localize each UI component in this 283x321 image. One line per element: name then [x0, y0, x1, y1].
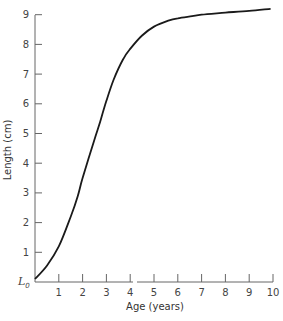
y-axis-title: Length (cm): [2, 120, 13, 181]
y-origin-label: L0: [17, 275, 30, 290]
x-tick-label: 9: [246, 287, 252, 298]
x-ticks: 12345678910: [56, 274, 280, 298]
y-tick-label: 9: [23, 9, 29, 20]
y-tick-label: 2: [23, 217, 29, 228]
growth-chart: 123456789 12345678910 L0 Age (years) Len…: [0, 0, 283, 321]
y-tick-label: 1: [23, 247, 29, 258]
growth-curve: [35, 9, 271, 279]
y-tick-label: 6: [23, 98, 29, 109]
y-tick-label: 8: [23, 39, 29, 50]
x-tick-label: 4: [127, 287, 133, 298]
x-axis-title: Age (years): [126, 301, 184, 312]
x-tick-label: 2: [79, 287, 85, 298]
y-ticks: 123456789: [23, 9, 42, 258]
x-tick-label: 1: [56, 287, 62, 298]
x-tick-label: 7: [198, 287, 204, 298]
x-tick-label: 5: [151, 287, 157, 298]
y-tick-label: 7: [23, 69, 29, 80]
x-tick-label: 3: [103, 287, 109, 298]
x-tick-label: 10: [267, 287, 280, 298]
x-tick-label: 8: [222, 287, 228, 298]
y-tick-label: 4: [23, 158, 29, 169]
x-tick-label: 6: [175, 287, 181, 298]
y-tick-label: 5: [23, 128, 29, 139]
y-tick-label: 3: [23, 187, 29, 198]
